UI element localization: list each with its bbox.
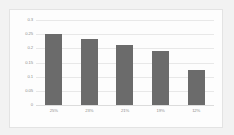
- bar[interactable]: [81, 39, 98, 105]
- bar-slot: 21%: [107, 20, 143, 105]
- bar-slot: 25%: [36, 20, 72, 105]
- xtick-label-2: 21%: [121, 109, 129, 113]
- xtick-label-3: 19%: [157, 109, 165, 113]
- plot-area: 0.3 0.25 0.2 0.15 0.1 0.05 0 25%: [36, 20, 214, 105]
- bar[interactable]: [116, 45, 133, 105]
- ytick-label-6: 0.3: [27, 18, 33, 22]
- xtick-label-4: 12%: [192, 109, 200, 113]
- bar-slot: 12%: [178, 20, 214, 105]
- bar-chart-figure: 0.3 0.25 0.2 0.15 0.1 0.05 0 25%: [9, 9, 223, 128]
- bars-layer: 25% 23% 21% 19% 12%: [36, 20, 214, 105]
- ytick-label-3: 0.15: [25, 60, 33, 64]
- ytick-label-1: 0.05: [25, 89, 33, 93]
- bar-slot: 19%: [143, 20, 179, 105]
- ytick-label-4: 0.2: [27, 46, 33, 50]
- ytick-label-5: 0.25: [25, 32, 33, 36]
- xtick-label-1: 23%: [85, 109, 93, 113]
- bar[interactable]: [45, 34, 62, 105]
- bar-slot: 23%: [72, 20, 108, 105]
- bar[interactable]: [188, 70, 205, 105]
- xtick-label-0: 25%: [50, 109, 58, 113]
- bar[interactable]: [152, 51, 169, 105]
- gridline-0: 0: [36, 105, 214, 106]
- ytick-label-2: 0.1: [27, 75, 33, 79]
- ytick-label-0: 0: [31, 103, 33, 107]
